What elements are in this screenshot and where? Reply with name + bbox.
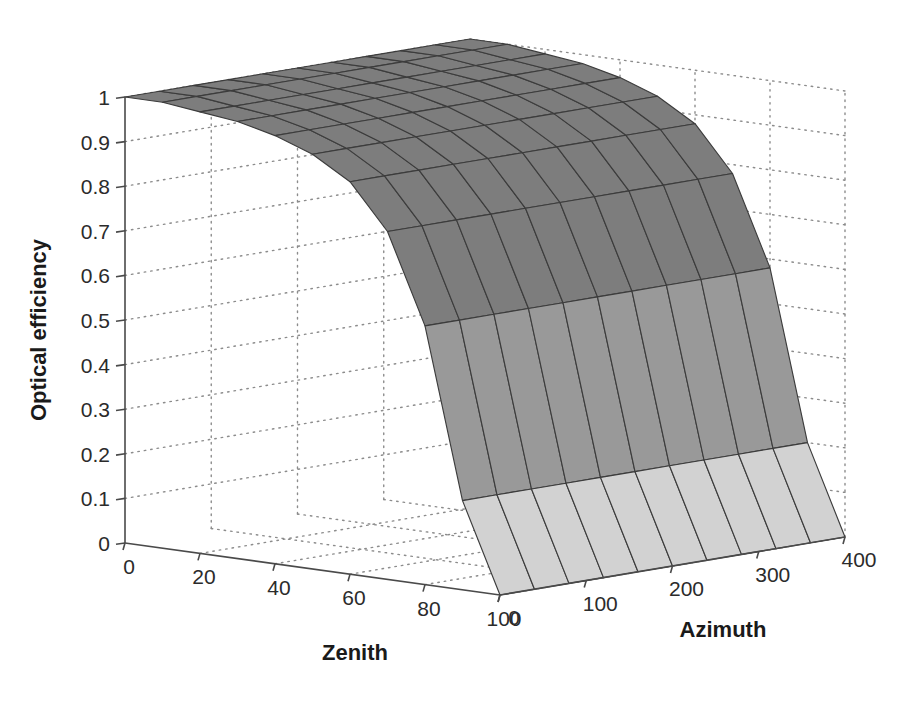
gridline-left-z — [125, 351, 470, 409]
z-tick — [116, 320, 125, 321]
z-tick — [116, 498, 125, 499]
z-tick — [116, 365, 125, 366]
z-tick — [116, 97, 125, 98]
z-tick — [116, 186, 125, 187]
z-tick — [116, 275, 125, 276]
z-tick — [116, 142, 125, 143]
x-tick — [423, 585, 425, 592]
surface-plot-figure: 00.10.20.30.40.50.60.70.80.91 0204060801… — [0, 0, 917, 706]
gridline-left-z — [125, 396, 470, 454]
x-tick — [348, 574, 350, 581]
z-tick — [116, 231, 125, 232]
z-tick — [116, 409, 125, 410]
z-tick — [116, 454, 125, 455]
plot-canvas — [0, 0, 917, 706]
x-axis-line — [125, 543, 500, 595]
z-tick — [116, 543, 125, 544]
x-tick — [198, 553, 200, 560]
x-tick — [273, 564, 275, 571]
surface-mesh — [125, 39, 845, 595]
y-tick — [498, 595, 500, 602]
